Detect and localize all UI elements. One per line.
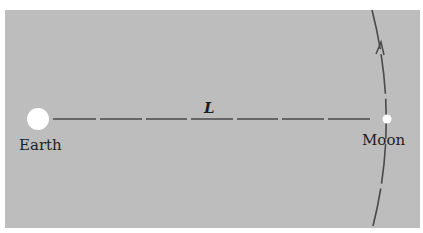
earth-label: Earth	[19, 136, 62, 154]
moon-label: Moon	[362, 131, 405, 149]
distance-label: L	[203, 99, 215, 117]
moon-body	[383, 115, 392, 124]
earth-moon-diagram: Earth Moon L	[0, 0, 423, 233]
earth-body	[27, 108, 49, 130]
